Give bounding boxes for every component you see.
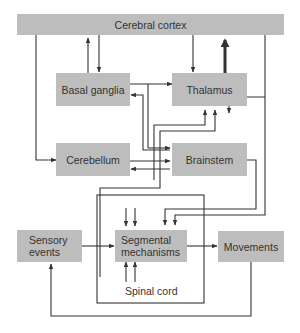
node-label: Brainstem (186, 154, 233, 166)
node-brainstem: Brainstem (172, 143, 247, 176)
spinal-cord-label: Spinal cord (125, 285, 178, 297)
node-label: Thalamus (186, 84, 232, 96)
diagram-lines (0, 0, 300, 333)
node-thalamus: Thalamus (172, 73, 247, 106)
node-label: Cerebral cortex (115, 19, 187, 31)
node-cerebral-cortex: Cerebral cortex (17, 14, 284, 35)
node-label-line1: Segmental (121, 234, 180, 246)
node-label: Movements (224, 241, 278, 253)
node-label-line2: mechanisms (121, 246, 180, 258)
node-label-line1: Sensory (29, 234, 68, 246)
node-cerebellum: Cerebellum (56, 143, 130, 176)
node-basal-ganglia: Basal ganglia (56, 73, 130, 106)
node-label: Cerebellum (66, 154, 120, 166)
node-label-line2: events (29, 246, 68, 258)
node-sensory-events: Sensory events (17, 230, 82, 262)
node-movements: Movements (218, 231, 284, 262)
node-segmental-mechanisms: Segmental mechanisms (115, 230, 187, 262)
node-label: Basal ganglia (61, 84, 124, 96)
